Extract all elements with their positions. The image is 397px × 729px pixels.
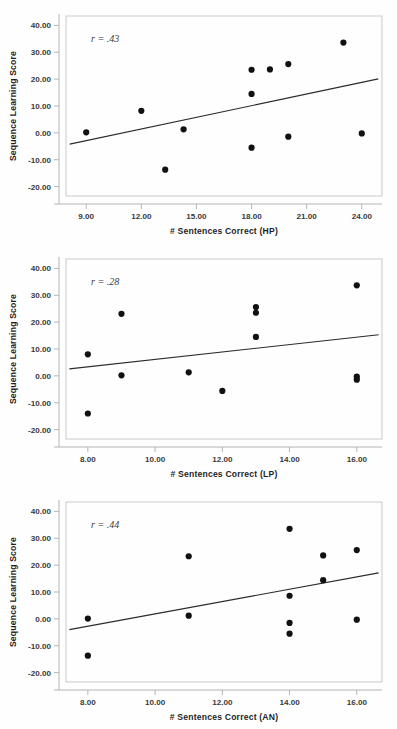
- data-point: [253, 310, 259, 316]
- x-tick-label: 14.00: [279, 698, 300, 707]
- y-tick-label: 40.00: [31, 507, 52, 516]
- data-point: [286, 631, 292, 637]
- y-tick-label: -20.00: [28, 669, 51, 678]
- y-tick-label: -20.00: [28, 183, 51, 192]
- x-tick-label: 10.00: [145, 455, 166, 464]
- y-tick-label: 20.00: [31, 75, 52, 84]
- data-point: [285, 134, 291, 140]
- data-point: [83, 129, 89, 135]
- data-point: [359, 130, 365, 136]
- data-point: [186, 613, 192, 619]
- data-point: [286, 620, 292, 626]
- scatter-panel-an: 40.0030.0020.0010.000.00-10.00-20.008.00…: [0, 486, 397, 729]
- data-point: [85, 351, 91, 357]
- figure-page: 40.0030.0020.0010.000.00-10.00-20.009.00…: [0, 0, 397, 729]
- data-point: [85, 615, 91, 621]
- data-point: [285, 61, 291, 67]
- x-tick-label: 12.00: [212, 698, 233, 707]
- data-point: [286, 526, 292, 532]
- data-point: [219, 388, 225, 394]
- y-tick-label: 30.00: [31, 48, 52, 57]
- correlation-annotation: r = .44: [91, 519, 119, 530]
- correlation-annotation: r = .28: [91, 276, 119, 287]
- data-point: [320, 552, 326, 558]
- y-tick-label: -20.00: [28, 426, 51, 435]
- y-tick-label: -10.00: [28, 642, 51, 651]
- scatter-plot-an: 40.0030.0020.0010.000.00-10.00-20.008.00…: [0, 486, 397, 729]
- y-tick-label: 0.00: [35, 129, 51, 138]
- y-tick-label: 10.00: [31, 588, 52, 597]
- y-tick-label: 30.00: [31, 534, 52, 543]
- data-point: [85, 410, 91, 416]
- regression-line: [69, 335, 378, 369]
- data-point: [286, 593, 292, 599]
- y-tick-label: 10.00: [31, 345, 52, 354]
- y-tick-label: 0.00: [35, 372, 51, 381]
- y-axis-title: Sequence Learning Score: [8, 294, 18, 404]
- data-point: [186, 369, 192, 375]
- x-tick-label: 16.00: [347, 698, 368, 707]
- data-point: [320, 577, 326, 583]
- y-tick-label: 0.00: [35, 615, 51, 624]
- y-tick-label: -10.00: [28, 156, 51, 165]
- scatter-panel-lp: 40.0030.0020.0010.000.00-10.00-20.008.00…: [0, 243, 397, 486]
- data-point: [267, 66, 273, 72]
- y-tick-label: 40.00: [31, 264, 52, 273]
- data-point: [248, 91, 254, 97]
- x-tick-label: 12.00: [131, 212, 152, 221]
- data-point: [253, 304, 259, 310]
- regression-line: [69, 573, 378, 630]
- correlation-annotation: r = .43: [91, 33, 119, 44]
- y-axis-title: Sequence Learning Score: [8, 537, 18, 647]
- y-tick-label: 20.00: [31, 561, 52, 570]
- scatter-plot-lp: 40.0030.0020.0010.000.00-10.00-20.008.00…: [0, 243, 397, 486]
- data-point: [253, 334, 259, 340]
- x-tick-label: 15.00: [186, 212, 207, 221]
- data-point: [85, 653, 91, 659]
- data-point: [354, 547, 360, 553]
- regression-line: [70, 79, 379, 144]
- x-tick-label: 9.00: [78, 212, 94, 221]
- data-point: [180, 126, 186, 132]
- x-tick-label: 10.00: [145, 698, 166, 707]
- y-axis-title: Sequence Learning Score: [8, 51, 18, 161]
- x-tick-label: 16.00: [347, 455, 368, 464]
- scatter-plot-hp: 40.0030.0020.0010.000.00-10.00-20.009.00…: [0, 0, 397, 243]
- x-axis-title: # Sentences Correct (AN): [170, 712, 278, 722]
- y-tick-label: -10.00: [28, 399, 51, 408]
- x-axis-title: # Sentences Correct (LP): [170, 469, 277, 479]
- data-point: [340, 39, 346, 45]
- x-tick-label: 24.00: [352, 212, 373, 221]
- y-tick-label: 40.00: [31, 21, 52, 30]
- y-tick-label: 30.00: [31, 291, 52, 300]
- data-point: [186, 553, 192, 559]
- x-axis-title: # Sentences Correct (HP): [170, 226, 278, 236]
- x-tick-label: 12.00: [212, 455, 233, 464]
- data-point: [354, 617, 360, 623]
- scatter-panel-hp: 40.0030.0020.0010.000.00-10.00-20.009.00…: [0, 0, 397, 243]
- x-tick-label: 8.00: [80, 698, 96, 707]
- data-point: [138, 108, 144, 114]
- data-point: [354, 377, 360, 383]
- data-point: [118, 372, 124, 378]
- data-point: [162, 167, 168, 173]
- data-point: [118, 311, 124, 317]
- x-tick-label: 8.00: [80, 455, 96, 464]
- data-point: [354, 282, 360, 288]
- x-tick-label: 18.00: [241, 212, 262, 221]
- x-tick-label: 14.00: [279, 455, 300, 464]
- x-tick-label: 21.00: [297, 212, 318, 221]
- y-tick-label: 20.00: [31, 318, 52, 327]
- data-point: [248, 145, 254, 151]
- data-point: [248, 67, 254, 73]
- y-tick-label: 10.00: [31, 102, 52, 111]
